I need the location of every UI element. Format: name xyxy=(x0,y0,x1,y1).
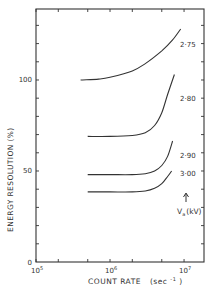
plot-frame xyxy=(36,9,204,262)
series-line-290 xyxy=(88,141,173,175)
x-axis-label: COUNT RATE (sec -1 ) xyxy=(88,274,183,286)
legend-title: Va(kV) xyxy=(177,193,202,217)
x-tick-label: 107 xyxy=(179,265,191,275)
y-tick-label: 50 xyxy=(23,167,32,175)
x-tick-label: 106 xyxy=(105,265,117,275)
y-tick-label: 100 xyxy=(19,76,32,84)
energy-resolution-chart: 105106107050100 2·752·802·903·00 COUNT R… xyxy=(0,0,211,293)
svg-text:Va(kV): Va(kV) xyxy=(177,207,202,217)
series-label: 3·00 xyxy=(180,170,196,178)
plot-border xyxy=(36,9,204,262)
series-lines xyxy=(81,29,181,192)
y-axis-label: ENERGY RESOLUTION (%) xyxy=(6,127,15,232)
series-label: 2·90 xyxy=(180,152,196,160)
series-labels: 2·752·802·903·00 xyxy=(180,41,196,178)
axis-ticks xyxy=(36,9,204,262)
tick-labels: 105106107050100 xyxy=(19,76,192,275)
arrow-up-icon xyxy=(184,193,189,202)
y-tick-label: 0 xyxy=(28,259,32,267)
series-line-280 xyxy=(88,75,175,137)
series-label: 2·75 xyxy=(180,41,196,49)
series-label: 2·80 xyxy=(180,95,196,103)
series-line-275 xyxy=(81,29,181,80)
x-tick-label: 105 xyxy=(31,265,43,275)
